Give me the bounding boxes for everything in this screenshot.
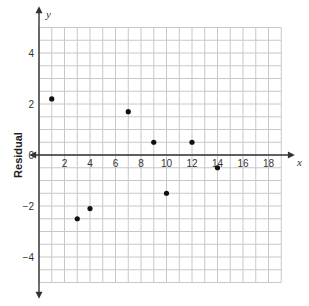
x-tick-label: 10 <box>161 158 173 169</box>
data-point <box>126 109 131 114</box>
y-axis-label: Residual <box>12 132 24 178</box>
residual-scatter-plot: 24681012141618420−2−4 x y Residual <box>0 0 309 306</box>
x-tick-label: 4 <box>87 158 93 169</box>
x-tick-label: 18 <box>263 158 275 169</box>
x-tick-label: 8 <box>138 158 144 169</box>
x-tick-label: 6 <box>113 158 119 169</box>
x-axis-right-arrow-icon <box>288 152 295 159</box>
axes <box>29 6 295 299</box>
x-tick-label: 16 <box>237 158 249 169</box>
y-axis-down-arrow-icon <box>36 292 43 299</box>
data-point <box>215 165 220 170</box>
y-tick-label: 2 <box>28 99 34 110</box>
data-point <box>151 140 156 145</box>
y-axis-letter: y <box>45 8 51 20</box>
data-point <box>49 96 54 101</box>
data-point <box>87 206 92 211</box>
y-tick-label: −2 <box>23 201 35 212</box>
data-point <box>189 140 194 145</box>
x-tick-label: 12 <box>186 158 198 169</box>
x-tick-label: 2 <box>62 158 68 169</box>
x-axis-label: x <box>296 156 302 168</box>
data-point <box>164 191 169 196</box>
y-tick-label: 0 <box>28 150 34 161</box>
y-tick-label: −4 <box>23 252 35 263</box>
y-axis-up-arrow-icon <box>36 6 43 13</box>
y-tick-label: 4 <box>28 48 34 59</box>
data-point <box>75 216 80 221</box>
